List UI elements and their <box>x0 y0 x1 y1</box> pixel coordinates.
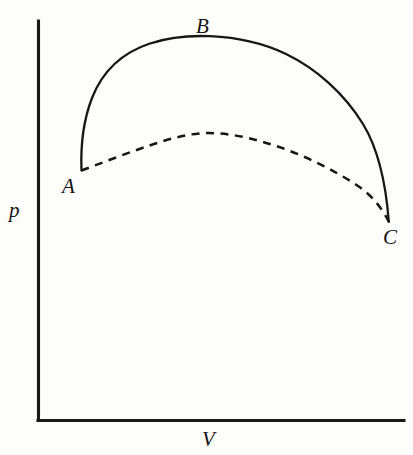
point-label-a: A <box>62 176 75 197</box>
y-axis-label: p <box>9 200 20 221</box>
pv-diagram-figure: A B C p V <box>0 0 413 455</box>
point-label-b: B <box>196 16 209 37</box>
x-axis-label: V <box>202 429 215 450</box>
solid-process-curve <box>81 36 388 222</box>
point-label-c: C <box>383 227 397 248</box>
pv-diagram-canvas <box>0 0 413 455</box>
dashed-process-curve <box>82 133 389 222</box>
